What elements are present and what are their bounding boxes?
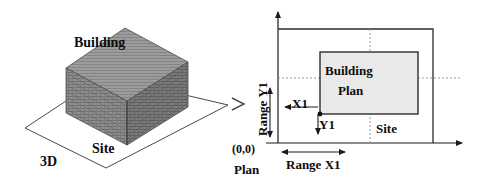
range-y1-label: Range Y1 xyxy=(256,82,269,136)
view-label-3d: 3D xyxy=(40,155,57,169)
x1-offset-label: X1 xyxy=(292,97,308,110)
site-label-3d: Site xyxy=(92,142,115,156)
origin-label: (0,0) xyxy=(232,143,255,155)
building-label-plan: Building xyxy=(325,64,373,77)
building-footprint-plan xyxy=(320,52,418,114)
diagram-canvas xyxy=(0,0,480,189)
left-edge-chevron-mark xyxy=(232,98,244,110)
plan-label-inside-footprint: Plan xyxy=(338,84,363,97)
building-label-3d: Building xyxy=(74,36,125,50)
site-label-plan: Site xyxy=(376,122,397,135)
range-x1-label: Range X1 xyxy=(286,158,341,171)
architecture-site-diagram: Building Site 3D Building Plan Site X1 Y… xyxy=(0,0,480,189)
view-label-plan: Plan xyxy=(234,163,259,176)
y1-offset-label: Y1 xyxy=(319,118,335,131)
